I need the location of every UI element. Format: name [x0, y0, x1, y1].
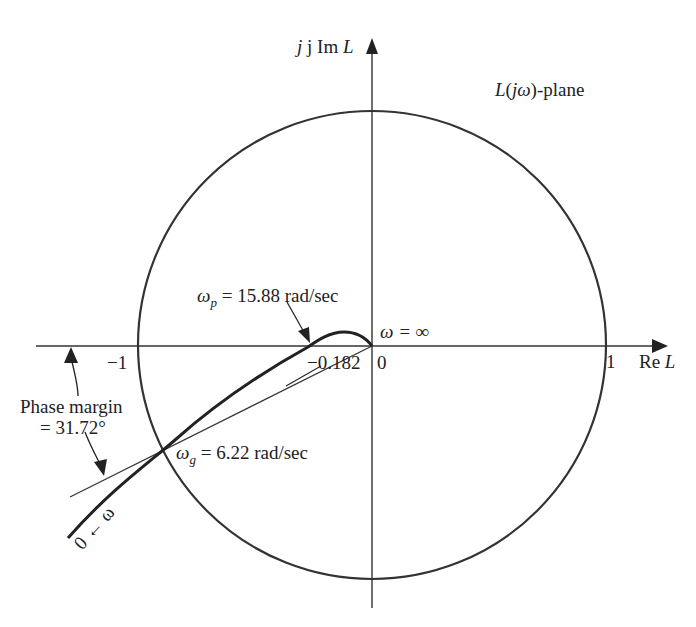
- plane-label: L(jω)-plane: [495, 80, 584, 99]
- tick-zero: 0: [377, 353, 387, 372]
- real-axis-label: Re L: [639, 352, 675, 371]
- phase-margin-arrow-down-icon: [94, 459, 107, 476]
- phase-margin-label-line2: = 31.72°: [40, 418, 106, 437]
- nyquist-diagram: [0, 0, 696, 627]
- omega-infinity-label: ω = ∞: [380, 322, 429, 341]
- omega-p-label: ωp = 15.88 rad/sec: [197, 286, 338, 309]
- imag-axis-label: j j Im L: [297, 37, 354, 56]
- crossing-value-label: −0.182: [307, 353, 360, 372]
- tick-minus-one: −1: [107, 353, 127, 372]
- imag-axis-arrow-icon: [366, 38, 378, 54]
- phase-margin-arc: [72, 362, 78, 396]
- phase-margin-label-line1: Phase margin: [20, 397, 123, 416]
- tick-one: 1: [606, 352, 616, 371]
- omega-p-arrow-icon: [298, 327, 310, 343]
- phase-margin-arrow-up-icon: [64, 347, 78, 363]
- omega-g-label: ωg = 6.22 rad/sec: [176, 443, 308, 466]
